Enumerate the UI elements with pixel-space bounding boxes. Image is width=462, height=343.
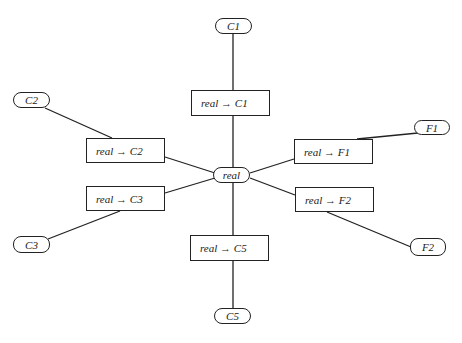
node-f2: F2: [410, 238, 446, 256]
edge-c2-to-real-c2: [45, 108, 112, 138]
node-f2-label: F2: [422, 241, 434, 253]
edge-real-to-real-f1: [250, 159, 294, 173]
node-f1-label: F1: [426, 122, 438, 134]
transform-real-to-c5-label: real → C5: [200, 242, 247, 254]
node-c5: C5: [214, 308, 251, 324]
node-c3: C3: [13, 236, 50, 253]
edge-real-c3-to-c3: [48, 211, 120, 239]
transform-real-to-c1: real → C1: [191, 90, 270, 116]
transform-real-to-f1: real → F1: [294, 139, 373, 164]
transform-real-to-f2: real → F2: [295, 187, 374, 212]
edge-real-to-real-c3: [165, 178, 215, 193]
node-c1: C1: [215, 18, 252, 34]
transform-real-to-c5: real → C5: [190, 235, 269, 261]
node-c2-label: C2: [25, 94, 38, 106]
transform-real-to-f1-label: real → F1: [304, 146, 350, 158]
node-c1-label: C1: [227, 20, 240, 32]
edge-real-c2-to-real: [165, 157, 215, 173]
node-real-center: real: [213, 167, 250, 183]
node-c3-label: C3: [25, 239, 38, 251]
node-f1: F1: [414, 120, 450, 135]
node-c5-label: C5: [226, 310, 239, 322]
node-c2: C2: [13, 92, 50, 108]
transform-real-to-c3: real → C3: [86, 186, 165, 211]
transform-real-to-c1-label: real → C1: [201, 97, 248, 109]
node-real-label: real: [223, 169, 240, 181]
transform-real-to-c3-label: real → C3: [96, 193, 143, 205]
transform-real-to-f2-label: real → F2: [305, 194, 351, 206]
edge-real-f2-to-f2: [327, 212, 411, 247]
transform-real-to-c2-label: real → C2: [96, 145, 143, 157]
edge-real-to-real-f2: [250, 178, 295, 195]
transform-real-to-c2: real → C2: [86, 138, 165, 163]
